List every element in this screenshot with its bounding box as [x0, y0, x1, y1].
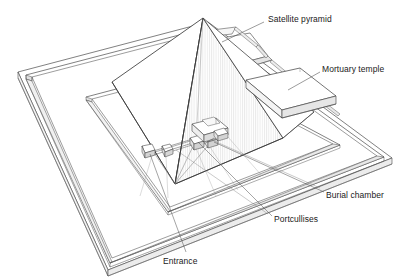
pyramid-complex-illustration — [0, 0, 409, 280]
label-burial-chamber: Burial chamber — [326, 190, 384, 200]
label-entrance: Entrance — [163, 256, 197, 266]
pyramid-complex-diagram: Satellite pyramid Mortuary temple Burial… — [0, 0, 409, 280]
label-mortuary-temple: Mortuary temple — [322, 64, 384, 74]
label-satellite-pyramid: Satellite pyramid — [268, 14, 332, 24]
label-portcullises: Portcullises — [274, 214, 318, 224]
